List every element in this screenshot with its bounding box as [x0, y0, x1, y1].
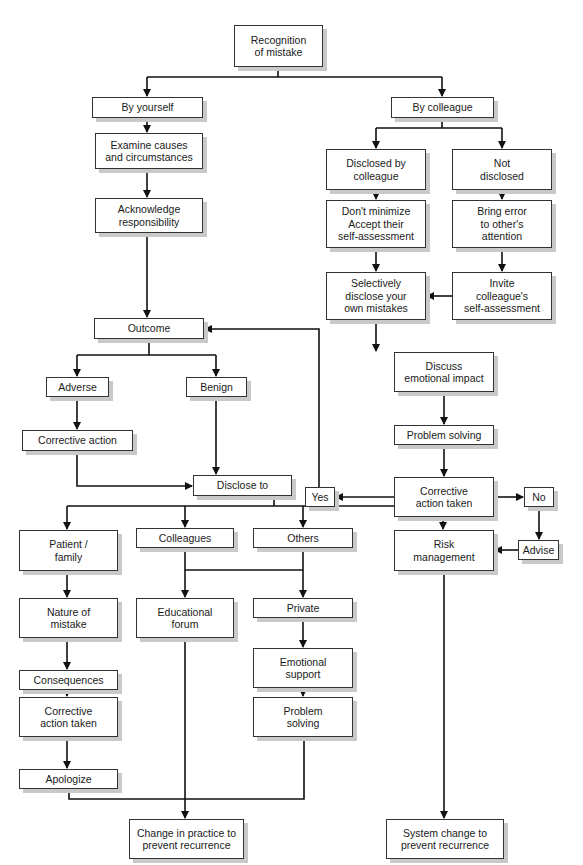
node-others: Others [253, 528, 353, 548]
node-by-colleague: By colleague [391, 97, 494, 118]
node-patient-family: Patient / family [19, 530, 118, 571]
node-problem-solving-right: Problem solving [394, 425, 494, 445]
node-problem-solving-bottom: Problem solving [253, 697, 353, 737]
node-acknowledge-responsibility: Acknowledge responsibility [95, 198, 203, 233]
node-yes: Yes [305, 487, 335, 507]
node-discuss-emotional-impact: Discuss emotional impact [394, 352, 494, 392]
node-change-in-practice: Change in practice to prevent recurrence [129, 819, 244, 859]
node-consequences: Consequences [19, 670, 118, 690]
node-system-change: System change to prevent recurrence [386, 819, 504, 859]
node-bring-error: Bring error to other's attention [452, 200, 552, 248]
node-advise: Advise [518, 540, 559, 560]
node-outcome: Outcome [94, 318, 204, 339]
node-recognition-of-mistake: Recognition of mistake [234, 25, 323, 67]
node-dont-minimize: Don't minimize Accept their self-assessm… [326, 200, 426, 248]
node-apologize: Apologize [19, 769, 118, 789]
node-private: Private [253, 598, 353, 618]
node-adverse: Adverse [46, 377, 109, 397]
node-risk-management: Risk management [394, 530, 494, 571]
node-corrective-action-taken-right: Corrective action taken [394, 477, 494, 517]
node-disclose-to: Disclose to [193, 475, 292, 496]
node-benign: Benign [186, 377, 247, 397]
node-invite-colleague: Invite colleague's self-assessment [452, 272, 552, 320]
node-corrective-action: Corrective action [22, 430, 133, 451]
node-emotional-support: Emotional support [253, 648, 353, 688]
node-not-disclosed: Not disclosed [452, 149, 552, 190]
node-educational-forum: Educational forum [136, 598, 234, 638]
node-disclosed-by-colleague: Disclosed by colleague [326, 149, 426, 190]
flowchart-canvas: Recognition of mistake By yourself By co… [0, 0, 583, 865]
node-corrective-action-taken-left: Corrective action taken [19, 697, 118, 737]
node-examine-causes: Examine causes and circumstances [95, 133, 203, 169]
node-selectively-disclose: Selectively disclose your own mistakes [326, 272, 426, 320]
node-nature-of-mistake: Nature of mistake [19, 598, 118, 638]
node-colleagues: Colleagues [136, 528, 234, 548]
node-no: No [524, 487, 554, 507]
node-by-yourself: By yourself [92, 97, 203, 118]
